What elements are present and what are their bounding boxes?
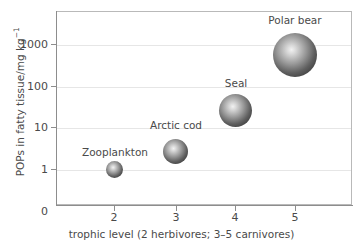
gridline-1 <box>57 170 351 171</box>
y-axis-title-exponent: −1 <box>12 27 21 38</box>
data-point-polar-bear <box>273 33 317 77</box>
x-tick-label-5: 5 <box>285 211 305 224</box>
y-tick-10 <box>51 127 57 128</box>
y-axis-title: POPs in fatty tissue/mg kg−1 <box>12 17 26 187</box>
data-label-polar-bear: Polar bear <box>250 14 340 26</box>
data-label-seal: Seal <box>191 77 281 89</box>
y-tick-label-0: 0 <box>8 205 48 218</box>
data-point-zooplankton <box>106 161 123 178</box>
data-label-zooplankton: Zooplankton <box>70 146 160 158</box>
data-point-arctic-cod <box>163 139 188 164</box>
y-tick-1000 <box>51 44 57 45</box>
x-tick-label-4: 4 <box>225 211 245 224</box>
x-tick-label-2: 2 <box>104 211 124 224</box>
x-axis-title: trophic level (2 herbivores; 3–5 carnivo… <box>0 228 363 240</box>
chart-figure: 1000 100 10 1 0 2 3 4 5 POPs in fatty ti… <box>0 0 363 249</box>
y-axis-title-text: POPs in fatty tissue/mg kg <box>14 38 26 176</box>
data-label-arctic-cod: Arctic cod <box>131 119 221 131</box>
y-tick-1 <box>51 169 57 170</box>
x-axis-line <box>56 205 353 206</box>
y-tick-100 <box>51 86 57 87</box>
data-point-seal <box>219 94 252 127</box>
x-tick-label-3: 3 <box>166 211 186 224</box>
y-axis-line <box>56 11 57 206</box>
